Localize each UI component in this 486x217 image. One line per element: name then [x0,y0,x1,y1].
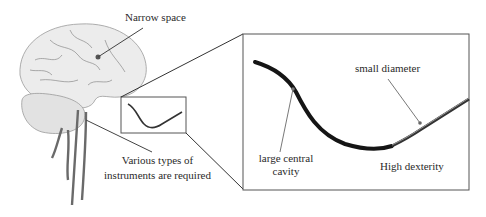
small-diameter-marker [418,121,422,125]
instrument-curve-small [128,104,182,128]
diagram-canvas [0,0,486,217]
label-instruments: Various types of instruments are require… [100,154,215,182]
label-instruments-line1: Various types of [100,154,215,167]
label-cavity-line2: cavity [254,165,318,178]
label-cavity: large central cavity [254,152,318,178]
label-small-diameter: small diameter [355,62,420,75]
label-narrow-space: Narrow space [125,11,186,24]
instruments-leader [86,120,152,152]
label-high-dexterity: High dexterity [380,160,444,173]
label-instruments-line2: instruments are required [100,169,215,182]
cavity-marker [291,87,295,91]
label-cavity-line1: large central [254,152,318,165]
